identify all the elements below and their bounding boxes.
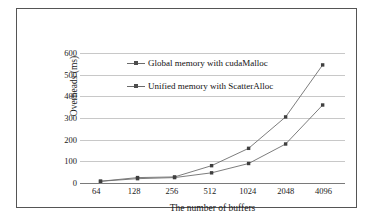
data-point-marker	[247, 147, 250, 150]
y-tick-label: 400	[37, 92, 77, 101]
y-tick-label: 600	[37, 49, 77, 58]
legend-item-cudamalloc: Global memory with cudaMalloc	[127, 58, 268, 69]
legend-label: Unified memory with ScatterAlloc	[148, 81, 273, 92]
series-plot	[80, 53, 345, 183]
data-point-marker	[173, 176, 176, 179]
data-point-marker	[136, 177, 139, 180]
x-tick-label: 2048	[277, 187, 294, 196]
x-tick-label: 1024	[239, 187, 256, 196]
legend-item-scatteralloc: Unified memory with ScatterAlloc	[127, 81, 273, 92]
data-point-marker	[210, 171, 213, 174]
x-tick-label: 512	[203, 187, 216, 196]
y-axis-ticks: 600 500 400 300 200 100 0	[33, 53, 77, 183]
x-tick-label: 128	[128, 187, 141, 196]
x-tick-label: 64	[92, 187, 101, 196]
plot-area	[80, 53, 345, 183]
data-point-marker	[247, 162, 250, 165]
legend-line-marker-icon	[127, 60, 145, 68]
data-point-marker	[321, 103, 324, 106]
legend-label: Global memory with cudaMalloc	[148, 58, 268, 69]
data-point-marker	[321, 63, 324, 66]
x-tick-label: 4096	[315, 187, 332, 196]
series-line	[101, 105, 323, 181]
y-tick-label: 200	[37, 136, 77, 145]
y-tick-label: 100	[37, 157, 77, 166]
x-axis-line	[80, 183, 345, 184]
y-tick-label: 0	[37, 179, 77, 188]
data-point-marker	[284, 142, 287, 145]
x-axis-ticks: 64 128 256 512 1024 2048 4096	[80, 187, 345, 201]
data-point-marker	[284, 115, 287, 118]
y-tick-label: 500	[37, 71, 77, 80]
x-tick-label: 256	[166, 187, 179, 196]
data-point-marker	[210, 164, 213, 167]
x-axis-title: The number of buffers	[80, 203, 345, 213]
legend-line-marker-icon	[127, 83, 145, 91]
chart-frame: Overheads (ms) 600 500 400 300 200 100 0	[16, 8, 357, 208]
data-point-marker	[99, 180, 102, 183]
y-tick-label: 300	[37, 114, 77, 123]
chart-figure: Overheads (ms) 600 500 400 300 200 100 0	[0, 0, 373, 224]
